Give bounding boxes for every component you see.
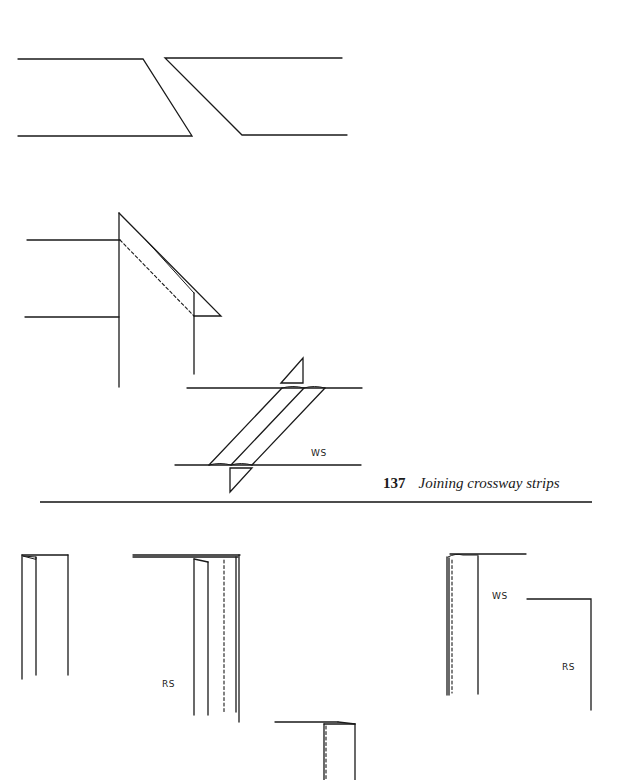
fold-rs-illustration <box>133 555 240 722</box>
figure-caption: 137 Joining crossway strips <box>383 474 560 492</box>
fold-ws-illustration <box>447 554 526 695</box>
strip-ends-illustration <box>18 58 347 136</box>
ws-label: WS <box>492 591 508 601</box>
document-page: WS RS WS RS 137 Joining crossway strips <box>0 0 628 780</box>
rs-label: RS <box>162 679 175 689</box>
strip-overlap-illustration <box>25 213 221 387</box>
figure-title: Joining crossway strips <box>419 475 560 491</box>
joined-strip-illustration <box>175 358 362 492</box>
corner-rs-illustration <box>527 599 591 710</box>
fold-lower-illustration <box>275 722 355 780</box>
figure-number: 137 <box>383 475 406 491</box>
ws-label: WS <box>311 448 327 458</box>
rs-label: RS <box>562 662 575 672</box>
diagram-canvas <box>0 0 628 780</box>
fold-left-illustration <box>22 555 68 679</box>
